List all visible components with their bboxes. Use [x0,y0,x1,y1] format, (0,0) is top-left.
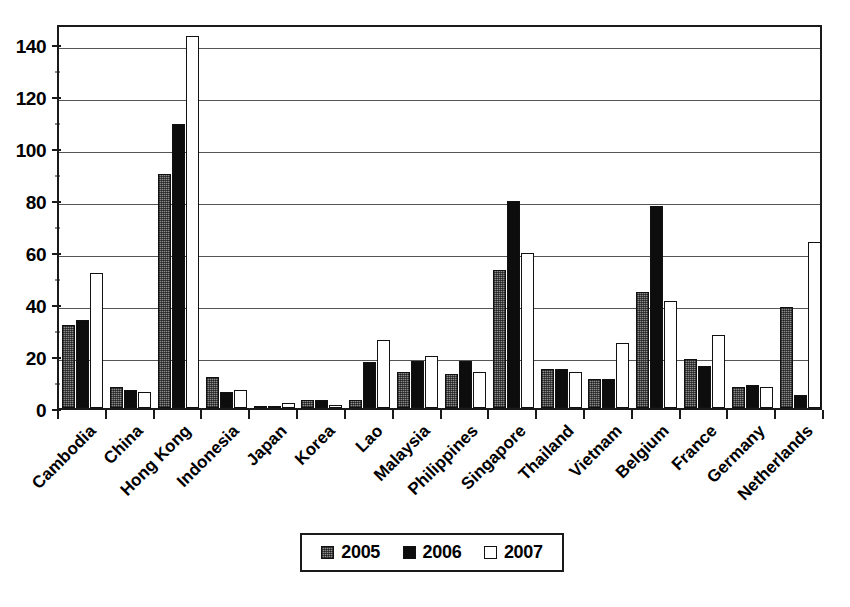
bar-belgium-2007 [664,301,677,408]
bar-china-2007 [138,392,151,408]
x-axis-tick-mark [583,410,585,419]
y-axis-minor-tick [55,71,60,72]
y-axis-tick-label: 100 [0,140,46,159]
bar-philippines-2006 [459,361,472,408]
x-axis-tick-mark [57,410,59,419]
legend-swatch-2006 [403,546,416,559]
x-axis-label-japan: Japan [243,422,290,469]
bar-indonesia-2006 [220,392,233,408]
gridline [59,48,820,49]
y-axis-tick-mark [52,149,61,151]
bar-netherlands-2006 [794,395,807,408]
bar-malaysia-2007 [425,356,438,408]
bar-china-2005 [110,387,123,408]
legend-entry-2006: 2006 [403,542,462,563]
gridline [59,100,820,101]
y-axis-tick-label: 0 [0,401,46,420]
legend-entry-2005: 2005 [321,542,380,563]
y-axis-tick-label: 20 [0,348,46,367]
y-axis-tick-mark [52,357,61,359]
legend-entry-2007: 2007 [484,542,543,563]
bar-cambodia-2005 [62,325,75,408]
bar-chart: 020406080100120140 CambodiaChinaHong Kon… [0,0,850,607]
bar-netherlands-2005 [780,307,793,408]
bar-thailand-2005 [541,369,554,408]
y-axis-tick-mark [52,253,61,255]
y-axis-minor-tick [55,175,60,176]
y-axis-tick-mark [52,305,61,307]
legend-label-2006: 2006 [423,542,462,563]
y-axis-minor-tick [55,123,60,124]
bar-lao-2007 [377,340,390,408]
bar-lao-2006 [363,362,376,408]
bar-germany-2006 [746,385,759,408]
x-axis-tick-mark [296,410,298,419]
y-axis-tick-label: 80 [0,192,46,211]
chart-legend: 200520062007 [300,533,564,572]
y-axis-minor-tick [55,383,60,384]
bar-cambodia-2006 [76,320,89,408]
bar-thailand-2007 [569,372,582,408]
bar-hong-kong-2005 [158,174,171,408]
bar-france-2005 [684,359,697,408]
bar-france-2007 [712,335,725,408]
x-axis-tick-mark [440,410,442,419]
bar-malaysia-2006 [411,361,424,408]
bar-hong-kong-2006 [172,124,185,408]
bar-cambodia-2007 [90,273,103,408]
y-axis-tick-label: 120 [0,88,46,107]
x-axis-tick-mark [200,410,202,419]
legend-label-2005: 2005 [341,542,380,563]
x-axis-label-korea: Korea [292,422,338,468]
x-axis-label-cambodia: Cambodia [29,422,99,492]
bar-vietnam-2007 [616,343,629,408]
legend-swatch-2007 [484,546,497,559]
bar-korea-2007 [329,405,342,408]
y-axis-minor-tick [55,279,60,280]
plot-area [57,25,822,410]
bar-germany-2005 [732,387,745,408]
x-axis-tick-mark [535,410,537,419]
bar-japan-2006 [268,406,281,408]
bar-belgium-2006 [650,206,663,408]
bar-indonesia-2005 [206,377,219,408]
x-axis-tick-mark [774,410,776,419]
bar-philippines-2005 [445,374,458,408]
bar-korea-2005 [301,400,314,408]
bar-korea-2006 [315,400,328,408]
bar-malaysia-2005 [397,372,410,408]
bar-thailand-2006 [555,369,568,408]
bar-japan-2005 [254,406,267,408]
bar-belgium-2005 [636,292,649,408]
x-axis-tick-mark [487,410,489,419]
x-axis-tick-mark [392,410,394,419]
x-axis-tick-mark [631,410,633,419]
x-axis-tick-mark [105,410,107,419]
bar-singapore-2005 [493,270,506,408]
legend-swatch-2005 [321,546,334,559]
bar-vietnam-2005 [588,379,601,408]
x-axis-tick-mark [822,410,824,419]
bar-netherlands-2007 [808,242,821,408]
bar-vietnam-2006 [602,379,615,408]
x-axis-tick-mark [679,410,681,419]
y-axis-tick-mark [52,201,61,203]
x-axis-label-lao: Lao [352,422,385,455]
bar-philippines-2007 [473,372,486,408]
x-axis-tick-mark [726,410,728,419]
legend-label-2007: 2007 [504,542,543,563]
bar-singapore-2006 [507,201,520,408]
bar-france-2006 [698,366,711,408]
y-axis-minor-tick [55,227,60,228]
x-axis-label-china: China [101,422,146,467]
x-axis-tick-mark [248,410,250,419]
bar-china-2006 [124,390,137,408]
x-axis-tick-mark [344,410,346,419]
bar-hong-kong-2007 [186,36,199,408]
bar-singapore-2007 [521,253,534,408]
y-axis-tick-label: 140 [0,36,46,55]
y-axis-tick-mark [52,45,61,47]
bar-japan-2007 [282,403,295,408]
y-axis-tick-label: 60 [0,244,46,263]
x-axis-tick-mark [153,410,155,419]
